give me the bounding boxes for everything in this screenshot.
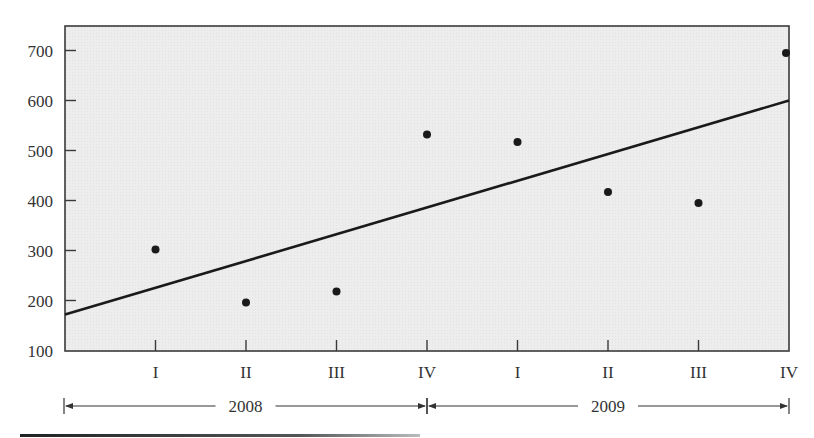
x-tick-label: I [515,363,521,382]
y-tick-label: 700 [28,42,54,61]
data-point [242,299,250,307]
year-label: 2008 [229,397,263,416]
x-tick-label: II [240,363,252,382]
x-tick-label: III [690,363,707,382]
y-tick-label: 500 [28,142,54,161]
bottom-rule [20,434,420,437]
data-point [423,131,431,139]
y-tick-label: 300 [28,242,54,261]
y-tick-label: 600 [28,92,54,111]
year-brackets: 20082009 [64,397,789,416]
y-tick-label: 200 [28,292,54,311]
y-tick-label: 400 [28,192,54,211]
year-label: 2009 [591,397,625,416]
data-point [604,188,612,196]
x-tick-label: IV [780,363,799,382]
data-point [782,49,790,57]
plot-area [65,26,789,351]
chart: 100200300400500600700 IIIIIIIVIIIIIIIV 2… [0,0,814,438]
x-tick-label: IV [418,363,437,382]
data-point [333,288,341,296]
y-tick-label: 100 [28,342,54,361]
data-point [514,138,522,146]
x-tick-label: II [602,363,614,382]
data-point [152,246,160,254]
x-tick-label: III [328,363,345,382]
x-tick-label: I [153,363,159,382]
data-point [695,199,703,207]
